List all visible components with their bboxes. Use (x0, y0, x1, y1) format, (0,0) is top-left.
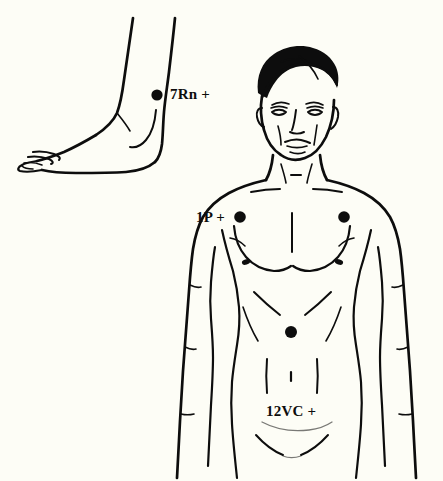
rectus-line-right (317, 359, 318, 393)
lower-lip-line (287, 146, 307, 148)
eye-crease-right (307, 107, 323, 109)
point-label-12vc: 12VC + (266, 404, 316, 419)
eye-right (308, 110, 322, 115)
forearm-crease-right (397, 347, 408, 349)
point-dot-12vc (285, 326, 297, 338)
point-dot-1p-left (234, 211, 246, 223)
eyebrow-right (306, 103, 323, 105)
foot-lateral-view (18, 18, 175, 173)
arm-right-outer-line (327, 180, 416, 478)
cheek-line-right (314, 125, 317, 145)
nose-base-line (290, 132, 304, 134)
point-dot-7rn (151, 89, 162, 100)
lower-belly-curve (262, 422, 332, 431)
nose-bridge-line (292, 110, 296, 130)
mouth-line (285, 140, 310, 143)
clavicle-right (313, 189, 342, 192)
malleolus-curve (130, 110, 156, 147)
anatomical-line-drawing (0, 0, 443, 481)
neck-muscle-left (281, 164, 286, 183)
torso-right-side-line (354, 230, 371, 478)
pectoral-left-contour (234, 226, 291, 271)
rectus-line-left (266, 359, 267, 393)
chin-crease-line (290, 152, 305, 154)
clavicle-left (251, 189, 280, 192)
point-label-1p: 1P + (196, 210, 225, 225)
torso-left-side-line (222, 230, 239, 478)
heel-and-sole-line (42, 162, 155, 173)
arm-left-inner-line (208, 247, 215, 466)
wrist-line-right (399, 414, 412, 415)
cheek-line-left (278, 126, 281, 145)
neck-right-line (320, 155, 327, 180)
neck-muscle-right (307, 164, 312, 183)
groin-crease-center (283, 456, 301, 458)
groin-crease-left (256, 435, 283, 455)
eye-crease-left (271, 107, 287, 109)
neck-left-line (266, 155, 273, 180)
wrist-line-left (181, 414, 194, 415)
shin-anterior-line (96, 18, 133, 135)
toe-nail-line (22, 166, 33, 169)
rib-arch-left (254, 292, 280, 315)
oblique-line-right (326, 307, 341, 341)
eyebrow-left (272, 103, 289, 105)
point-label-7rn: 7Rn + (170, 87, 210, 102)
groin-crease-right (301, 435, 328, 455)
oblique-line-left (243, 307, 258, 341)
arm-right-inner-line (378, 247, 385, 466)
forearm-crease-left (185, 347, 196, 349)
ankle-crease-line (117, 113, 130, 131)
elbow-crease-right (392, 285, 403, 287)
point-dot-1p-right (338, 211, 350, 223)
eye-left (272, 110, 286, 115)
elbow-crease-left (190, 285, 201, 287)
acupuncture-point-diagram: 7Rn + 1P + 12VC + (0, 0, 443, 481)
rib-arch-right (305, 292, 331, 315)
